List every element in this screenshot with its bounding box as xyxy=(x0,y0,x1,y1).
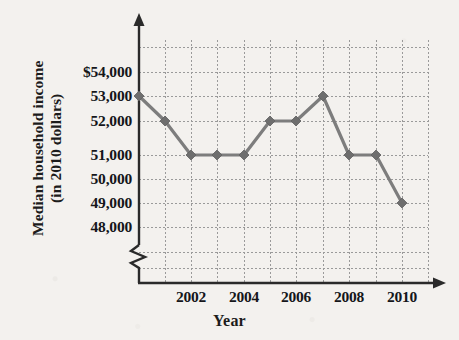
horizontal-gridlines xyxy=(139,47,428,268)
x-axis-title: Year xyxy=(0,312,459,330)
y-axis xyxy=(131,13,145,283)
x-tick-label-2006: 2006 xyxy=(281,288,311,306)
x-tick-label-2010: 2010 xyxy=(387,288,417,306)
vertical-gridlines xyxy=(165,40,428,282)
data-point-2008 xyxy=(344,150,354,160)
x-axis-arrowhead xyxy=(433,278,446,289)
data-point-2003 xyxy=(212,150,222,160)
x-axis xyxy=(138,278,446,289)
x-tick-label-2008: 2008 xyxy=(334,288,364,306)
x-tick-label-2004: 2004 xyxy=(229,288,259,306)
x-tick-label-2002: 2002 xyxy=(176,288,206,306)
chart-figure: Median household income (in 2010 dollars… xyxy=(0,0,459,340)
y-axis-break-symbol xyxy=(131,245,145,283)
y-axis-arrowhead xyxy=(134,13,145,26)
